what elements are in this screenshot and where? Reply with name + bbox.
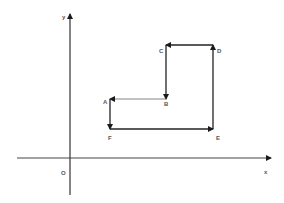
x-axis-label: x: [264, 169, 268, 175]
point-e-label: E: [216, 135, 220, 141]
point-f-label: F: [108, 135, 112, 141]
y-axis-label: y: [62, 14, 66, 20]
point-b-label: B: [164, 101, 169, 107]
point-a-label: A: [103, 99, 108, 105]
point-d-label: D: [217, 48, 222, 54]
point-c-label: C: [159, 48, 164, 54]
coordinate-diagram: y x O A B C D E F: [0, 0, 284, 203]
origin-label: O: [61, 170, 66, 176]
